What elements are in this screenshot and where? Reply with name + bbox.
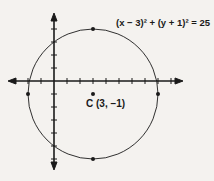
equation-label: (x − 3)² + (y + 1)² = 25 (116, 17, 210, 28)
x-axis-right-arrow-icon (175, 78, 183, 84)
y-axis-bottom-arrow-icon (51, 162, 57, 170)
data-point (91, 157, 95, 161)
data-point (91, 92, 95, 96)
center-label: C (3, −1) (86, 98, 125, 109)
data-point (26, 92, 30, 96)
data-point (156, 92, 160, 96)
y-axis-top-arrow-icon (51, 13, 57, 21)
data-point (91, 27, 95, 31)
